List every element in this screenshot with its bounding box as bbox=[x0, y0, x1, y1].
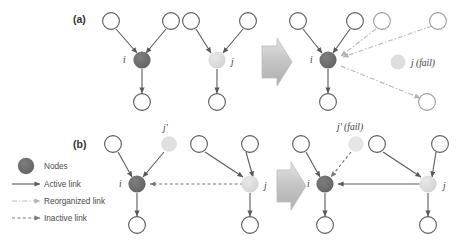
node-i-label: i bbox=[307, 179, 310, 189]
node-i-dark bbox=[128, 175, 145, 192]
empty-node bbox=[369, 136, 386, 153]
empty-node bbox=[103, 13, 120, 30]
node-i-dark bbox=[319, 51, 336, 68]
empty-node bbox=[432, 136, 449, 153]
panel-a-label: (a) bbox=[73, 13, 86, 25]
node-j-light bbox=[208, 51, 225, 68]
node-i-label: i bbox=[119, 179, 122, 189]
node-j-prime-failed bbox=[348, 136, 364, 152]
figure-container: (a) i j bbox=[0, 0, 463, 240]
legend-label-inactive-link: Inactive link bbox=[44, 214, 88, 223]
empty-node bbox=[134, 94, 151, 111]
empty-node bbox=[105, 136, 122, 153]
legend-label-nodes: Nodes bbox=[44, 162, 68, 171]
node-j-light bbox=[419, 175, 436, 192]
node-i-dark bbox=[133, 51, 150, 68]
node-j-light bbox=[241, 175, 258, 192]
empty-node bbox=[320, 94, 337, 111]
empty-node bbox=[317, 217, 334, 234]
node-j-prime-fail-label: j′ (fail) bbox=[335, 122, 363, 133]
legend-nodes-icon bbox=[18, 158, 34, 174]
legend-label-active-link: Active link bbox=[44, 180, 82, 189]
empty-node bbox=[242, 136, 259, 153]
panel-b-label: (b) bbox=[73, 138, 86, 150]
node-i-dark bbox=[316, 175, 333, 192]
empty-node bbox=[293, 136, 310, 153]
empty-node bbox=[430, 13, 447, 30]
empty-node bbox=[419, 94, 436, 111]
empty-node bbox=[129, 217, 146, 234]
legend-label-reorganized-link: Reorganized link bbox=[44, 197, 106, 206]
empty-node bbox=[191, 136, 208, 153]
empty-node bbox=[347, 13, 364, 30]
empty-node bbox=[242, 217, 259, 234]
empty-node bbox=[374, 13, 391, 30]
empty-node bbox=[420, 217, 437, 234]
node-j-prime-light bbox=[161, 136, 177, 152]
node-i-label: i bbox=[310, 55, 313, 65]
empty-node bbox=[209, 94, 226, 111]
node-j-failed bbox=[391, 55, 406, 70]
empty-node bbox=[290, 13, 307, 30]
node-j-prime-label: j′ bbox=[161, 123, 169, 133]
empty-node bbox=[183, 13, 200, 30]
node-j-fail-label: j (fail) bbox=[409, 58, 435, 69]
node-i-label: i bbox=[123, 55, 126, 65]
empty-node bbox=[163, 13, 180, 30]
empty-node bbox=[240, 13, 257, 30]
network-reorganization-diagram: (a) i j bbox=[0, 0, 463, 240]
